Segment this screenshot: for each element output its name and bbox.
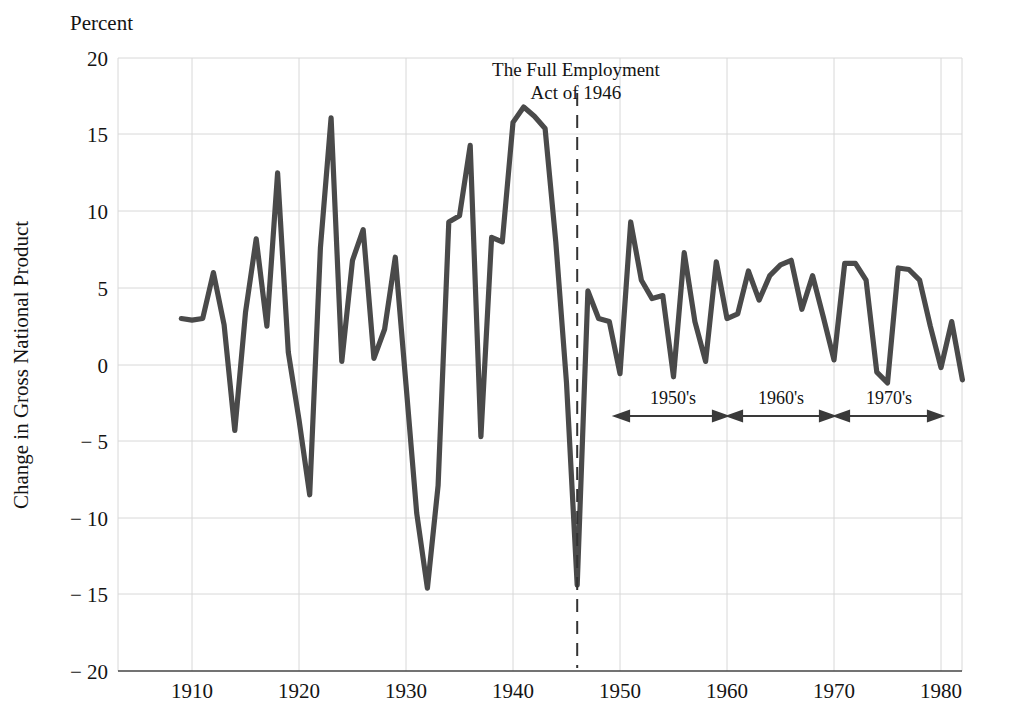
x-tick-label-1980: 1980 [920, 679, 962, 703]
y-tick-label-5: 5 [98, 277, 109, 301]
y-axis-unit-label: Percent [70, 11, 133, 35]
x-tick-label-1920: 1920 [278, 679, 320, 703]
gnp-change-chart-figure: 20 15 10 5 0 − 5 − 10 − 15 − 20 1910 192… [0, 0, 1021, 709]
x-tick-label-1950: 1950 [599, 679, 641, 703]
x-tick-label-1930: 1930 [385, 679, 427, 703]
full-employment-act-label-line1: The Full Employment [492, 59, 661, 80]
y-tick-label-neg20: − 20 [70, 660, 108, 684]
y-tick-label-neg15: − 15 [70, 583, 108, 607]
full-employment-act-label-line2: Act of 1946 [531, 82, 622, 103]
y-tick-label-10: 10 [87, 200, 108, 224]
x-tick-label-1910: 1910 [171, 679, 213, 703]
y-tick-label-20: 20 [87, 47, 108, 71]
y-tick-label-0: 0 [98, 354, 109, 378]
y-axis-title: Change in Gross National Product [9, 221, 33, 509]
decade-arrows [615, 411, 942, 421]
x-tick-label-1970: 1970 [813, 679, 855, 703]
chart-canvas: 20 15 10 5 0 − 5 − 10 − 15 − 20 1910 192… [0, 0, 1021, 709]
y-tick-label-neg10: − 10 [70, 507, 108, 531]
decade-label-1970s: 1970's [866, 388, 912, 408]
decade-label-1950s: 1950's [650, 388, 696, 408]
y-tick-label-neg5: − 5 [80, 430, 108, 454]
gnp-change-line [181, 107, 962, 588]
decade-label-1960s: 1960's [758, 388, 804, 408]
x-tick-label-1940: 1940 [492, 679, 534, 703]
x-tick-label-1960: 1960 [706, 679, 748, 703]
y-tick-label-15: 15 [87, 123, 108, 147]
